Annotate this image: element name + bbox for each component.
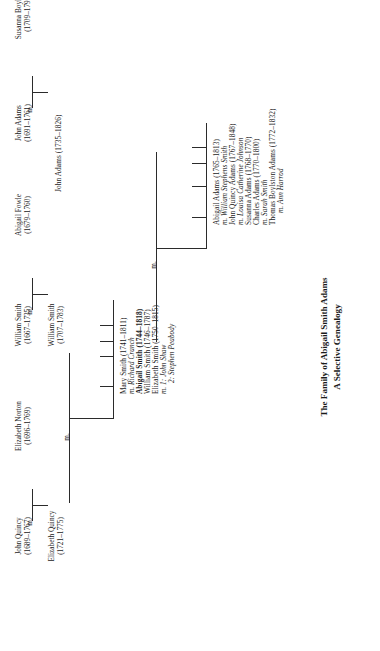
title-line-1: The Family of Abigail Smith Adams [319, 277, 329, 416]
child-tick-charles-adams [192, 147, 207, 148]
child-tick-elizabeth-smith [100, 325, 114, 326]
child-label: Charles Adams (1770–1800) [252, 139, 261, 225]
person-john-adams-sr: John Adams (1691–1761) [14, 63, 33, 183]
child-label: m. 1: John Shaw [160, 345, 168, 394]
descent-line-adams [33, 92, 48, 93]
person-name: Susanna Boylston [14, 0, 23, 73]
child-label: Abigail Adams (1765–1813) [212, 139, 221, 225]
sibling-bus-smith-vertical [113, 300, 114, 419]
title-line-2: A Selective Genealogy [331, 242, 344, 452]
list-item-smith-child-marriage-2: 2: Stephen Peabody [168, 324, 176, 383]
marriage-symbol-abigail-johnadams: m. [150, 259, 159, 271]
child-label: 2: Stephen Peabody [168, 324, 176, 383]
list-item-adams-child-marriage: m. Ann Harrod [277, 168, 285, 213]
connector-quincy-smith-marriage [69, 353, 70, 503]
genealogy-chart: John Quincy (1689–1767) m. Elizabeth Nor… [0, 0, 380, 651]
person-dates: (1721–1775) [56, 476, 65, 596]
child-tick-william-smith [100, 341, 114, 342]
person-name: John Quincy [14, 476, 23, 596]
child-tick-john-quincy-adams [192, 186, 207, 187]
descent-line-smith [33, 294, 48, 295]
person-name: William Smith [14, 265, 23, 385]
person-name: John Adams [14, 63, 23, 183]
marriage-symbol-smith-fowle: m. [26, 305, 35, 317]
sibling-bus-adams [156, 248, 206, 249]
marriage-symbol-adams-boylston: m. [26, 103, 35, 115]
child-label: John Quincy Adams (1767–1848) [228, 123, 237, 225]
person-william-smith-jr: William Smith (1707–1783) [47, 265, 66, 385]
person-susanna-boylston: Susanna Boylston (1709–1797) [14, 0, 33, 73]
person-name-dates: John Adams (1735–1826) [54, 114, 63, 192]
marriage-symbol-quincy-smithjr: m. [63, 431, 72, 443]
person-elizabeth-quincy: Elizabeth Quincy (1721–1775) [47, 476, 66, 596]
person-dates: (1707–1783) [56, 265, 65, 385]
connector-abigail-john-marriage [156, 152, 157, 342]
child-label: Mary Smith (1741–1811) [119, 317, 128, 394]
person-name: Elizabeth Quincy [47, 476, 56, 596]
person-dates: (1709–1797) [23, 0, 32, 73]
sibling-bus-smith [69, 418, 113, 419]
person-name: William Smith [47, 265, 56, 385]
child-label: Thomas Boylston Adams (1772–1832) [268, 108, 277, 225]
child-tick-abigail-smith [100, 356, 114, 357]
child-tick-abigail-adams [192, 217, 207, 218]
person-john-quincy: John Quincy (1689–1767) [14, 476, 33, 596]
marriage-symbol-quincy-norton: m. [26, 516, 35, 528]
person-william-smith-sr: William Smith (1667–1735) [14, 265, 33, 385]
page-title: The Family of Abigail Smith Adams A Sele… [318, 242, 344, 452]
person-john-adams: John Adams (1735–1826) [55, 114, 64, 192]
child-tick-mary-smith [100, 386, 114, 387]
child-label: m. Ann Harrod [277, 168, 285, 213]
descent-line-quincy [33, 505, 48, 506]
child-tick-susanna-adams [192, 163, 207, 164]
